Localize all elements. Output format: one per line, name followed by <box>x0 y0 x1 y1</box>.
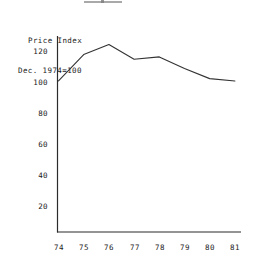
chart-figure: Price Index Dec. 1974=100 120 100 80 60 … <box>0 0 254 260</box>
y-tick-label-100: 100 <box>26 78 48 87</box>
x-tick-label-78: 78 <box>152 243 168 252</box>
plot-area <box>0 0 254 260</box>
x-tick-label-77: 77 <box>127 243 143 252</box>
x-tick-label-79: 79 <box>177 243 193 252</box>
series-line-price-index <box>59 45 235 81</box>
y-tick-label-120: 120 <box>26 47 48 56</box>
x-tick-label-76: 76 <box>101 243 117 252</box>
y-tick-label-60: 60 <box>26 140 48 149</box>
y-tick-label-40: 40 <box>26 171 48 180</box>
x-tick-label-80: 80 <box>202 243 218 252</box>
y-tick-label-80: 80 <box>26 109 48 118</box>
y-tick-label-20: 20 <box>26 202 48 211</box>
x-tick-label-75: 75 <box>76 243 92 252</box>
x-tick-label-74: 74 <box>51 243 67 252</box>
x-tick-label-81: 81 <box>227 243 243 252</box>
